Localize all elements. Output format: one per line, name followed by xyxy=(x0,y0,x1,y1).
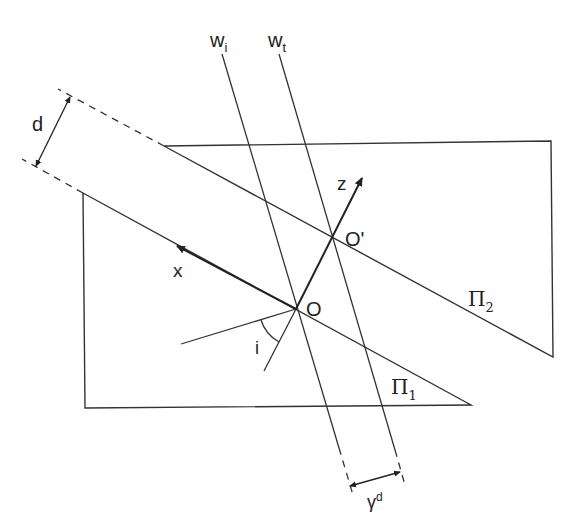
ray-wi xyxy=(222,54,353,495)
ray-wt xyxy=(279,54,405,485)
plane-edge-extensions xyxy=(22,89,164,193)
label-x: x xyxy=(173,260,183,281)
dimension-gamma-d xyxy=(350,472,400,486)
axis-x xyxy=(177,246,296,309)
label-O-prime: O' xyxy=(345,228,364,250)
plane-pi1 xyxy=(83,193,471,408)
incidence-line xyxy=(181,309,296,371)
label-pi1: Π1 xyxy=(391,375,417,403)
label-z: z xyxy=(337,173,347,194)
label-d: d xyxy=(32,113,43,135)
label-wt: wt xyxy=(267,29,286,55)
angle-i-arc xyxy=(261,320,279,342)
label-O: O xyxy=(306,298,322,320)
label-pi2: Π2 xyxy=(468,287,494,315)
diagram-canvas: wi wt d z x O O' Π2 Π1 i γd xyxy=(0,0,574,523)
label-wi: wi xyxy=(209,29,227,55)
label-gamma-d: γd xyxy=(367,490,383,512)
label-angle-i: i xyxy=(255,338,259,358)
